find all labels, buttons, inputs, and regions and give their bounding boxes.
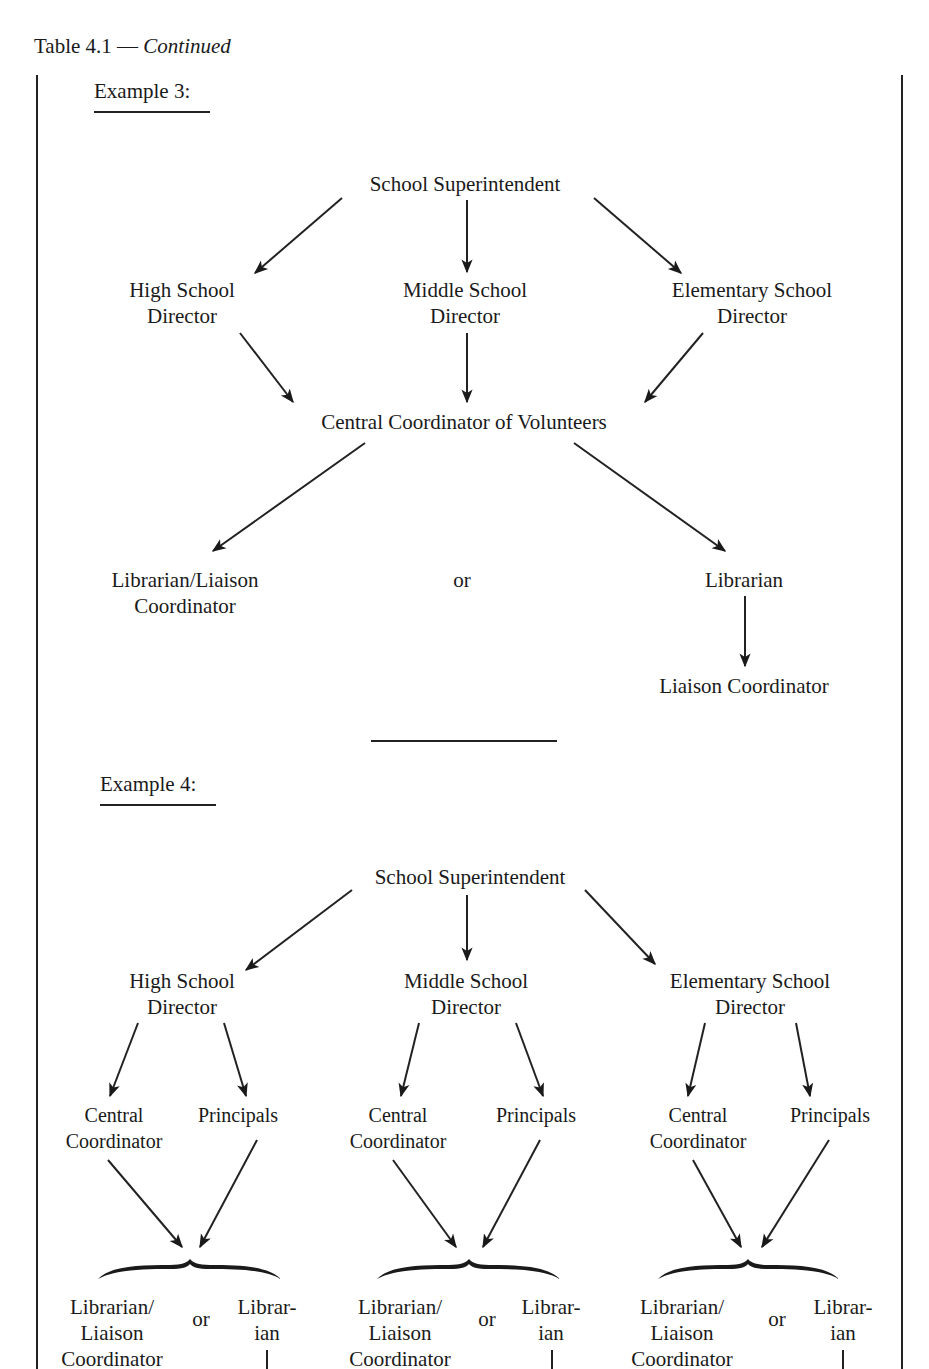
example-3-heading: Example 3: — [94, 78, 190, 104]
ex3-liaison-coordinator: Liaison Coordinator — [659, 673, 829, 699]
ex3-central-coordinator: Central Coordinator of Volunteers — [321, 409, 607, 435]
ex4-b2-librarian-liaison-coordinator: Librarian/ Liaison Coordinator — [349, 1294, 450, 1369]
ex4-b2-librarian: Librar- ian — [521, 1294, 580, 1346]
ex3-or: or — [453, 567, 471, 593]
example-3-underline — [94, 111, 210, 113]
ex3-middle-school-director: Middle School Director — [403, 277, 527, 329]
ex4-b3-librarian-liaison-coordinator: Librarian/ Liaison Coordinator — [631, 1294, 732, 1369]
ex4-high-school-director: High School Director — [129, 968, 235, 1020]
brace-1 — [98, 1259, 281, 1279]
ex4-b3-librarian: Librar- ian — [813, 1294, 872, 1346]
ex3-librarian: Librarian — [705, 567, 783, 593]
ex4-elementary-school-director: Elementary School Director — [670, 968, 830, 1020]
ex3-high-school-director: High School Director — [129, 277, 235, 329]
ex4-b1-librarian: Librar- ian — [237, 1294, 296, 1346]
ex4-b1-central-coordinator: Central Coordinator — [66, 1102, 163, 1154]
ex4-b1-principals: Principals — [198, 1102, 278, 1128]
brace-2 — [377, 1259, 560, 1279]
ex3-superintendent: School Superintendent — [370, 171, 561, 197]
ex4-b2-central-coordinator: Central Coordinator — [350, 1102, 447, 1154]
ex4-b3-principals: Principals — [790, 1102, 870, 1128]
ex4-b3-central-coordinator: Central Coordinator — [650, 1102, 747, 1154]
ex3-elementary-school-director: Elementary School Director — [672, 277, 832, 329]
ex4-b2-or: or — [478, 1306, 496, 1332]
example-4-heading: Example 4: — [100, 771, 196, 797]
ex4-b1-or: or — [192, 1306, 210, 1332]
ex3-librarian-liaison-coordinator: Librarian/Liaison Coordinator — [112, 567, 259, 619]
ex4-b3-or: or — [768, 1306, 786, 1332]
ex4-middle-school-director: Middle School Director — [404, 968, 528, 1020]
ex4-b1-librarian-liaison-coordinator: Librarian/ Liaison Coordinator — [61, 1294, 162, 1369]
ex4-b2-principals: Principals — [496, 1102, 576, 1128]
ex4-superintendent: School Superintendent — [375, 864, 566, 890]
brace-3 — [658, 1259, 839, 1279]
example-4-underline — [100, 804, 216, 806]
